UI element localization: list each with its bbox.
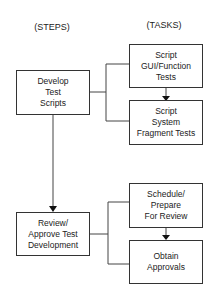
task-script-gui-function-tests: Script GUI/Function Tests (129, 44, 203, 88)
steps-header: (STEPS) (12, 22, 92, 32)
step-review-approve: Review/ Approve Test Development (16, 212, 90, 256)
task-schedule-prepare-review: Schedule/ Prepare For Review (129, 183, 203, 228)
task-script-system-fragment-tests: Script System Fragment Tests (129, 100, 203, 145)
tasks-header: (TASKS) (124, 20, 204, 30)
step-develop-test-scripts: Develop Test Scripts (16, 70, 90, 115)
task-obtain-approvals: Obtain Approvals (129, 240, 203, 284)
